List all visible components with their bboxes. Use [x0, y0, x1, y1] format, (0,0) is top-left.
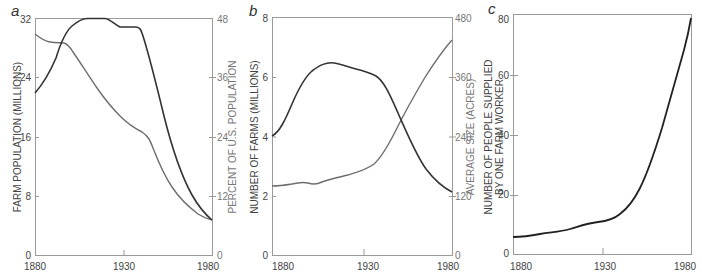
y-tick-label: 32	[20, 14, 32, 25]
y-tick-label: 2	[262, 191, 268, 202]
y-tick-label: 0	[503, 248, 509, 259]
y-tick-label: 4	[262, 132, 268, 143]
y-right-tick-label: 0	[217, 250, 223, 261]
y-right-tick-label: 480	[455, 13, 472, 24]
series-average-size	[272, 40, 452, 186]
x-tick-label: 1930	[113, 261, 136, 272]
y-axis-title-right: AVERAGE SIZE (ACRES)	[465, 79, 476, 196]
panel-c: c 0 20 40 60 80 1880 1930 1980 NUMBER OF…	[483, 0, 697, 272]
y-right-tick-label: 48	[217, 14, 229, 25]
panel-letter-c: c	[488, 0, 496, 17]
x-tick-label: 1980	[674, 261, 697, 272]
panel-letter-a: a	[11, 2, 19, 19]
y-axis-title-left: FARM POPULATION (MILLIONS)	[12, 62, 23, 212]
y-axis-title-line1: NUMBER OF PEOPLE SUPPLIED	[483, 59, 494, 214]
panel-a: a 0 8 16 24 32 0 12 24 36 48 1880 1930 1…	[11, 2, 238, 272]
y-tick-label: 0	[262, 250, 268, 261]
x-tick-label: 1880	[272, 261, 295, 272]
y-axis-title-left: NUMBER OF FARMS (MILLIONS)	[249, 60, 260, 213]
y-tick-label: 8	[262, 13, 268, 24]
x-tick-label: 1930	[594, 261, 617, 272]
panel-b: b 0 2 4 6 8 0 120 240 360 480 1880 1930 …	[249, 2, 476, 272]
y-tick-label: 8	[25, 191, 31, 202]
y-right-tick-label: 0	[455, 250, 461, 261]
x-tick-label: 1980	[197, 261, 220, 272]
y-axis-title-line2: BY ONE FARM WORKER	[494, 79, 505, 195]
panel-letter-b: b	[249, 2, 257, 19]
series-people-supplied	[513, 18, 691, 237]
series-percent-population	[35, 34, 212, 220]
series-number-of-farms	[272, 63, 452, 192]
figure: a 0 8 16 24 32 0 12 24 36 48 1880 1930 1…	[0, 0, 702, 274]
x-tick-label: 1930	[357, 261, 380, 272]
plot-frame-b	[273, 18, 453, 256]
y-tick-label: 0	[25, 250, 31, 261]
x-tick-label: 1980	[437, 261, 460, 272]
y-axis-title-right: PERCENT OF U.S. POPULATION	[227, 61, 238, 214]
plot-frame-a	[36, 19, 213, 256]
y-tick-label: 80	[498, 14, 510, 25]
x-tick-label: 1880	[24, 261, 47, 272]
plot-frame-c	[514, 15, 692, 255]
x-tick-label: 1880	[510, 261, 533, 272]
y-tick-label: 6	[262, 72, 268, 83]
